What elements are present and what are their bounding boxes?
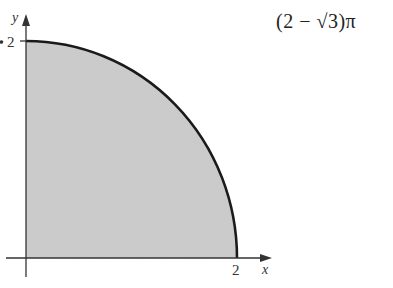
answer-expression: (2 − √3)π [276, 10, 356, 33]
y-axis-label: y [10, 10, 19, 25]
shaded-region [26, 41, 237, 258]
x-axis-label: x [261, 262, 269, 277]
x-tick-label: 2 [232, 262, 240, 278]
quarter-circle-figure: y 2 2 x [0, 0, 393, 288]
y-tick-label: 2 [7, 34, 15, 50]
bullet-dot [0, 40, 3, 44]
x-axis-arrow-icon [260, 254, 272, 262]
y-axis-arrow-icon [22, 14, 30, 26]
